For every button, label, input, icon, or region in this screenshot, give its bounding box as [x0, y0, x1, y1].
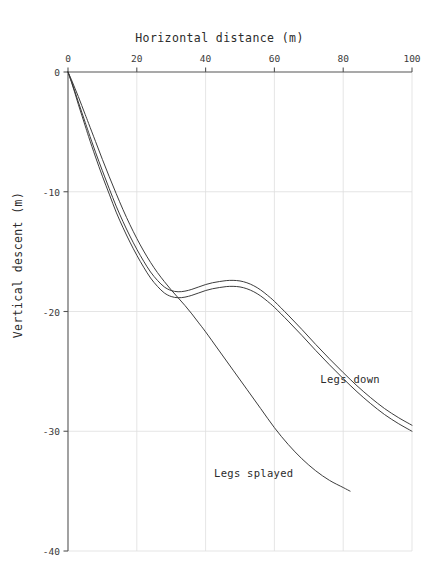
y-tick-label: -10: [32, 186, 60, 197]
x-tick-label: 40: [200, 53, 211, 64]
series-line: [68, 72, 350, 491]
x-tick-label: 100: [403, 53, 420, 64]
chart-figure: Horizontal distance (m) Vertical descent…: [0, 0, 439, 561]
y-tick-label: -30: [32, 426, 60, 437]
x-tick-label: 0: [65, 53, 71, 64]
curve-label: Legs down: [320, 373, 380, 385]
y-tick-label: -20: [32, 306, 60, 317]
y-tick-label: -40: [32, 546, 60, 557]
curve-label: Legs splayed: [214, 467, 293, 479]
x-tick-label: 80: [337, 53, 348, 64]
y-tick-label: 0: [32, 67, 60, 78]
x-tick-label: 60: [269, 53, 280, 64]
x-tick-label: 20: [131, 53, 142, 64]
